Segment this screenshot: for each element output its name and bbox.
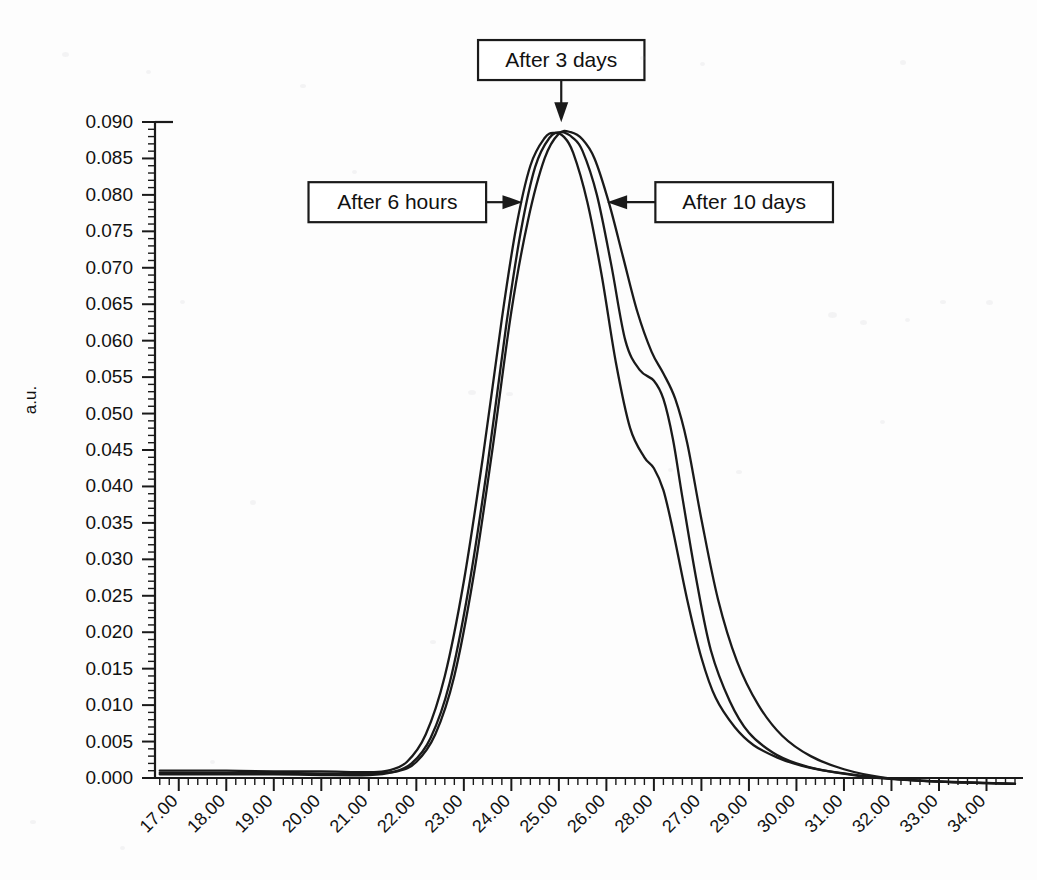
- y-tick-label: 0.035: [85, 512, 133, 533]
- y-tick-label: 0.085: [85, 147, 133, 168]
- y-tick-label: 0.015: [85, 658, 133, 679]
- annotation-label: After 3 days: [505, 48, 617, 71]
- y-tick-label: 0.040: [85, 475, 133, 496]
- y-tick-label: 0.070: [85, 257, 133, 278]
- y-tick-label: 0.030: [85, 548, 133, 569]
- y-tick-label: 0.045: [85, 439, 133, 460]
- y-tick-label: 0.010: [85, 694, 133, 715]
- annotation-label: After 10 days: [682, 190, 806, 213]
- y-axis-title-label: a.u.: [21, 386, 40, 414]
- chromatogram-chart: 0.0900.0850.0800.0750.0700.0650.0600.055…: [0, 0, 1037, 880]
- chart-page: 0.0900.0850.0800.0750.0700.0650.0600.055…: [0, 0, 1037, 880]
- y-tick-label: 0.055: [85, 366, 133, 387]
- y-tick-label: 0.050: [85, 403, 133, 424]
- y-tick-label: 0.005: [85, 731, 133, 752]
- y-tick-label: 0.080: [85, 184, 133, 205]
- y-tick-label: 0.075: [85, 220, 133, 241]
- y-tick-label: 0.020: [85, 621, 133, 642]
- y-tick-label: 0.065: [85, 293, 133, 314]
- y-axis-title: a.u.: [21, 386, 40, 414]
- y-tick-label: 0.060: [85, 330, 133, 351]
- y-tick-label: 0.025: [85, 585, 133, 606]
- y-tick-label: 0.090: [85, 111, 133, 132]
- annotation-label: After 6 hours: [337, 190, 457, 213]
- y-tick-label: 0.000: [85, 767, 133, 788]
